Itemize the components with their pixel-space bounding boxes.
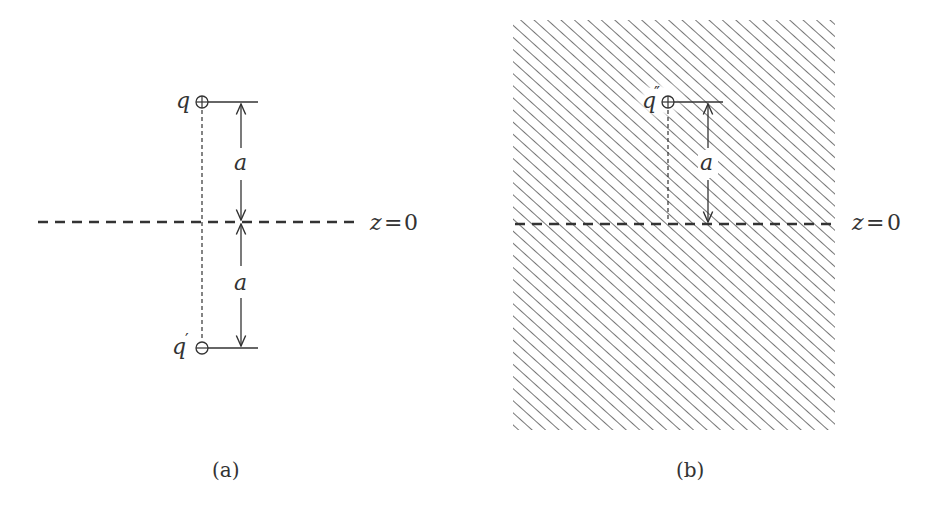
positive-charge-icon bbox=[196, 96, 208, 108]
caption-a: (a) bbox=[212, 458, 240, 482]
distance-label: a bbox=[700, 150, 713, 175]
charge-label: q bbox=[176, 88, 190, 113]
plane-label-eq: = bbox=[866, 210, 884, 235]
negative-charge-icon bbox=[196, 342, 208, 354]
distance-label-lower: a bbox=[234, 270, 247, 295]
charge-primes: ″ bbox=[654, 83, 660, 102]
plane-label-val: 0 bbox=[404, 210, 418, 235]
figure-b: q ″ a z = 0 (b) bbox=[513, 20, 901, 482]
plane-label-val: 0 bbox=[887, 210, 901, 235]
plane-label-eq: = bbox=[384, 210, 402, 235]
image-charge-prime: ′ bbox=[185, 330, 189, 349]
plane-label-var: z bbox=[851, 210, 864, 235]
distance-label-upper: a bbox=[234, 150, 247, 175]
caption-b: (b) bbox=[676, 458, 704, 482]
image-charge-label: q bbox=[172, 334, 186, 359]
figure-a: q q ′ a a z = 0 (a) bbox=[38, 88, 418, 482]
plane-label-var: z bbox=[369, 210, 382, 235]
positive-charge-icon bbox=[662, 96, 674, 108]
